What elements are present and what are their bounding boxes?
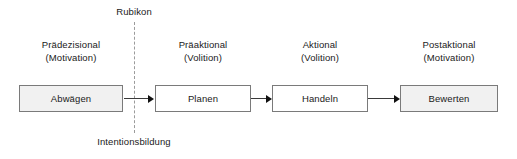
stage-box-bewerten[interactable]: Bewerten	[400, 85, 498, 112]
arrow-head-icon	[148, 95, 154, 103]
phase-heading-line2: (Motivation)	[400, 51, 498, 64]
rubicon-title: Rubikon	[94, 6, 174, 17]
phase-heading-praeaktional: Präaktional (Volition)	[155, 38, 251, 64]
rubicon-model-diagram: Rubikon Intentionsbildung Prädezisional …	[0, 0, 517, 159]
stage-box-label: Planen	[188, 93, 218, 104]
phase-heading-line2: (Volition)	[155, 51, 251, 64]
phase-heading-line1: Präaktional	[155, 38, 251, 51]
arrow-handeln-to-bewerten	[368, 93, 400, 104]
rubicon-dashed-line	[134, 22, 135, 133]
stage-box-label: Handeln	[302, 93, 338, 104]
phase-heading-postaktional: Postaktional (Motivation)	[400, 38, 498, 64]
phase-heading-line2: (Volition)	[272, 51, 368, 64]
phase-heading-aktional: Aktional (Volition)	[272, 38, 368, 64]
phase-heading-line2: (Motivation)	[19, 51, 123, 64]
arrow-planen-to-handeln	[251, 93, 272, 104]
stage-box-label: Bewerten	[429, 93, 470, 104]
arrow-shaft	[368, 98, 394, 99]
stage-box-planen[interactable]: Planen	[155, 85, 251, 112]
phase-heading-line1: Prädezisional	[19, 38, 123, 51]
phase-heading-line1: Postaktional	[400, 38, 498, 51]
stage-box-handeln[interactable]: Handeln	[272, 85, 368, 112]
stage-box-abwaegen[interactable]: Abwägen	[19, 85, 123, 112]
stage-box-label: Abwägen	[51, 93, 91, 104]
arrow-shaft	[251, 98, 266, 99]
phase-heading-line1: Aktional	[272, 38, 368, 51]
intentionsbildung-label: Intentionsbildung	[79, 136, 189, 147]
arrow-abwaegen-to-planen	[124, 93, 154, 104]
arrow-shaft	[124, 98, 148, 99]
phase-heading-praedezisional: Prädezisional (Motivation)	[19, 38, 123, 64]
